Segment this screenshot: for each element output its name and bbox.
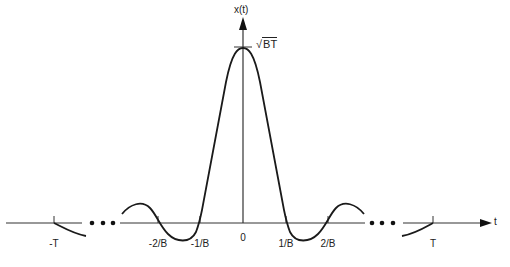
time-axis-arrow-icon [480, 219, 492, 227]
peak-value-label: √BT [256, 38, 277, 50]
tick-label-2-over-B: 2/B [320, 238, 335, 249]
tick-label-neg-2-over-B: -2/B [149, 238, 167, 249]
tick-label-neg-1-over-B: -1/B [191, 238, 209, 249]
left-tail-curve [54, 223, 86, 236]
signal-diagram [0, 0, 510, 267]
sqrt-radicand: BT [262, 37, 277, 50]
tick-label-zero: 0 [240, 232, 246, 243]
tick-label-1-over-B: 1/B [278, 238, 293, 249]
y-axis-label: x(t) [234, 4, 248, 15]
tick-label-T: T [430, 238, 436, 249]
tick-label-neg-T: -T [49, 238, 58, 249]
x-axis-label: t [494, 216, 497, 227]
y-axis-arrow-icon [239, 17, 247, 30]
right-tail-curve [402, 223, 433, 236]
